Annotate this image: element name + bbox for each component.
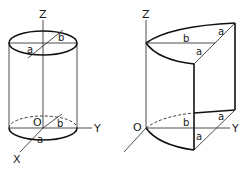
- bottom-a-upper-label: a: [218, 111, 224, 122]
- bottom-a-label: a: [37, 134, 43, 145]
- origin-label: O: [33, 116, 42, 129]
- bottom-b-label: b: [183, 117, 189, 128]
- bottom-a-lower-label: a: [196, 131, 202, 142]
- top-a-label: a: [27, 44, 33, 55]
- right-figure-parabolic-section: Z Y O b a a b a a: [124, 8, 239, 152]
- top-diagonal: [194, 23, 235, 64]
- top-a-lower-label: a: [196, 46, 202, 57]
- top-b-label: b: [183, 33, 189, 44]
- x-label: X: [13, 153, 21, 166]
- origin-label: O: [133, 121, 142, 134]
- bottom-b-label: b: [57, 118, 63, 129]
- y-label: Y: [231, 122, 239, 135]
- bottom-back-solid: [194, 110, 235, 113]
- diagram-canvas: Z Y X O b a b a Z Y O b: [0, 0, 248, 175]
- z-label: Z: [39, 8, 47, 21]
- top-b-label: b: [58, 32, 64, 43]
- bottom-front-curve: [146, 128, 194, 150]
- y-label: Y: [93, 122, 101, 135]
- left-figure-elliptic-cylinder: Z Y X O b a b a: [9, 8, 101, 166]
- top-front-curve: [146, 43, 194, 64]
- bottom-diagonal: [194, 110, 235, 150]
- z-label: Z: [142, 8, 150, 21]
- top-a-upper-label: a: [218, 26, 224, 37]
